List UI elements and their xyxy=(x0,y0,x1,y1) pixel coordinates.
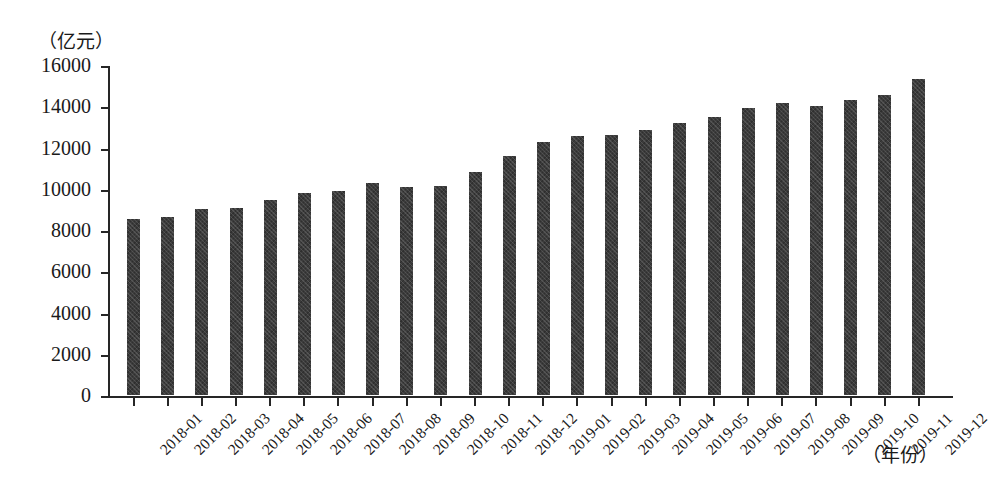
y-tick-label: 2000 xyxy=(51,344,91,364)
x-tick-mark xyxy=(337,397,339,406)
bar xyxy=(400,187,413,395)
y-tick-mark: 0 xyxy=(101,396,109,398)
bar xyxy=(639,130,652,395)
x-tick-mark xyxy=(167,397,169,406)
x-tick-mark xyxy=(269,397,271,406)
y-tick-label: 10000 xyxy=(41,179,91,199)
x-tick-mark xyxy=(781,397,783,406)
y-tick-label: 6000 xyxy=(51,261,91,281)
x-tick-mark xyxy=(815,397,817,406)
x-tick-mark xyxy=(542,397,544,406)
y-tick-mark: 8000 xyxy=(101,231,109,233)
bar xyxy=(469,172,482,395)
bar xyxy=(844,100,857,395)
plot-area: 1600014000120001000080006000400020000 20… xyxy=(108,66,953,396)
x-tick-mark xyxy=(372,397,374,406)
y-tick-mark: 14000 xyxy=(101,107,109,109)
y-tick-mark: 10000 xyxy=(101,190,109,192)
x-tick-mark xyxy=(133,397,135,406)
x-tick-mark xyxy=(747,397,749,406)
bar xyxy=(537,142,550,395)
x-tick-mark xyxy=(201,397,203,406)
bar xyxy=(195,209,208,395)
x-tick-mark xyxy=(303,397,305,406)
x-tick-mark xyxy=(406,397,408,406)
bar xyxy=(127,219,140,395)
bar xyxy=(708,117,721,395)
bar xyxy=(366,183,379,395)
bar xyxy=(503,156,516,395)
bar xyxy=(605,135,618,395)
x-tick-mark xyxy=(713,397,715,406)
y-tick-mark: 6000 xyxy=(101,272,109,274)
bar xyxy=(673,123,686,395)
y-tick-label: 16000 xyxy=(41,55,91,75)
x-tick-mark xyxy=(576,397,578,406)
y-tick-label: 0 xyxy=(81,385,91,405)
bar xyxy=(810,106,823,395)
y-tick-label: 4000 xyxy=(51,302,91,322)
y-tick-label: 12000 xyxy=(41,137,91,157)
x-tick-mark xyxy=(611,397,613,406)
bar xyxy=(878,95,891,395)
x-axis-unit-label: （年份） xyxy=(862,440,938,467)
x-tick-mark xyxy=(679,397,681,406)
x-tick-mark xyxy=(850,397,852,406)
y-tick-label: 14000 xyxy=(41,96,91,116)
bar xyxy=(161,217,174,395)
x-tick-mark xyxy=(440,397,442,406)
x-tick-mark xyxy=(235,397,237,406)
bar xyxy=(571,136,584,395)
bar xyxy=(912,79,925,395)
y-tick-mark: 12000 xyxy=(101,149,109,151)
bar xyxy=(298,193,311,395)
x-tick-mark xyxy=(508,397,510,406)
y-tick-mark: 16000 xyxy=(101,66,109,68)
bar xyxy=(742,108,755,395)
x-tick-mark xyxy=(474,397,476,406)
bar xyxy=(332,191,345,395)
x-tick-mark xyxy=(918,397,920,406)
bar xyxy=(776,103,789,395)
y-tick-label: 8000 xyxy=(51,220,91,240)
y-tick-mark: 2000 xyxy=(101,355,109,357)
y-tick-mark: 4000 xyxy=(101,314,109,316)
bar xyxy=(434,186,447,395)
bar xyxy=(264,200,277,395)
x-tick-mark xyxy=(884,397,886,406)
y-axis-unit-label: （亿元） xyxy=(38,26,114,53)
bar xyxy=(230,208,243,395)
x-tick-mark xyxy=(645,397,647,406)
